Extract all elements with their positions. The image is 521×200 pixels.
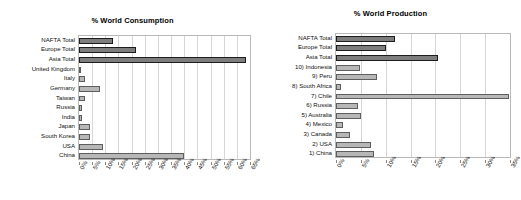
bar [336,36,395,42]
category-label: Germany [50,85,75,91]
gridline [171,36,172,159]
category-label: 2) USA [312,141,332,147]
bar [336,65,360,71]
category-label: 1) China [309,150,332,156]
chart-title-consumption: % World Consumption [0,16,259,25]
value-axis-production: 0%5%10%15%20%25%30%35% [335,160,511,198]
category-label: Italy [64,75,75,81]
category-label: Russia [56,104,75,110]
gridline [211,36,212,159]
category-label: NAFTA Total [298,35,332,41]
bar [79,134,90,140]
bar [336,45,386,51]
value-axis-consumption: 0%5%10%15%20%25%30%35%40%45%50%55%60%65% [78,162,251,200]
plot-area-production [335,33,511,158]
bar [336,84,341,90]
bar [79,144,103,150]
category-label: 7) Chile [311,92,332,98]
chart-consumption: % World Consumption NAFTA TotalEurope To… [0,0,259,199]
bar [79,96,85,102]
bar [336,55,438,61]
gridline [92,36,93,159]
category-label: 4) Mexico [306,121,332,127]
category-label: 3) Canada [304,131,332,137]
chart-production: % World Production NAFTA TotalEurope Tot… [259,0,518,199]
category-label: 8) South Africa [292,83,332,89]
category-label: Asia Total [306,54,332,60]
category-label: Japan [58,123,75,129]
gridline [145,36,146,159]
gridline [224,36,225,159]
bar [79,47,136,53]
plot-area-consumption [78,35,251,160]
gridline [158,36,159,159]
bar [336,122,343,128]
bar [79,115,82,121]
category-label: 6) Russia [306,102,332,108]
category-label: Europe Total [298,44,332,50]
bar [79,67,81,73]
gridline [197,36,198,159]
gridline [132,36,133,159]
bar [79,76,85,82]
bar [336,74,377,80]
gridline [118,36,119,159]
gridline [184,36,185,159]
gridline [250,36,251,159]
gridline [105,36,106,159]
category-label: South Korea [41,133,75,139]
category-label: NAFTA Total [41,37,75,43]
gridline [510,34,511,157]
bar [79,105,82,111]
bar [336,151,374,157]
category-label: 5) Australia [302,112,332,118]
bar [79,86,100,92]
bar [79,57,246,63]
bar [336,142,371,148]
category-label: Taiwan [56,94,75,100]
chart-title-production: % World Production [259,9,518,18]
category-label: Europe Total [41,46,75,52]
category-axis-consumption: NAFTA TotalEurope TotalAsia TotalUnited … [5,35,75,160]
category-label: Asia Total [49,56,75,62]
category-axis-production: NAFTA TotalEurope TotalAsia Total10) Ind… [260,33,332,158]
bar [336,113,361,119]
category-label: 9) Peru [312,73,332,79]
category-label: 10) Indonesia [295,64,332,70]
gridline [237,36,238,159]
category-label: USA [62,143,75,149]
bar [336,94,509,100]
category-label: China [59,152,75,158]
bar [79,38,113,44]
category-label: United Kingdom [32,66,75,72]
category-label: India [62,114,75,120]
bar [336,132,350,138]
bar [79,124,90,130]
bar [336,103,358,109]
